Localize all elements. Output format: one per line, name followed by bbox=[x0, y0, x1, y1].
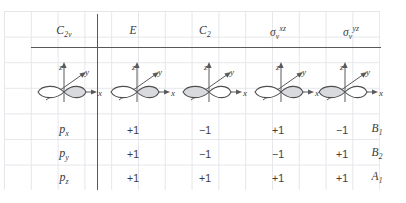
p-orbital-axes-right-shaded: z y x bbox=[28, 58, 108, 108]
orbital-diagram-identity: z y x bbox=[101, 58, 181, 108]
sigma-xz-superscript: xz bbox=[279, 24, 286, 33]
c2-symbol: C bbox=[199, 24, 207, 36]
p-orbital-axes-right-shaded: z y x bbox=[101, 58, 181, 108]
table-cell-px-identity: +1 bbox=[97, 124, 169, 136]
symmetry-subscript: 2 bbox=[379, 152, 383, 161]
p-orbital-lobe-right bbox=[209, 86, 231, 97]
c2-subscript: 2 bbox=[207, 30, 211, 39]
table-row-pz-symmetry-label: A1 bbox=[360, 170, 394, 185]
sigma-xz-subscript: v bbox=[276, 32, 280, 41]
table-cell-pz-sigma-xz: +1 bbox=[241, 172, 315, 184]
p-orbital-lobe-right-shaded bbox=[64, 86, 86, 97]
table-cell-px-c2: −1 bbox=[169, 124, 241, 136]
y-axis-label: y bbox=[84, 67, 89, 77]
character-table-page: C2v E C2 σvxz σvyz bbox=[0, 0, 406, 203]
sigma-yz-superscript: yz bbox=[352, 24, 359, 33]
column-header-point-group: C2v bbox=[31, 24, 97, 39]
y-axis-label: y bbox=[157, 67, 162, 77]
p-orbital-lobe-left bbox=[255, 86, 281, 97]
y-axis-label: y bbox=[365, 67, 370, 77]
column-header-sigma-v-xz: σvxz bbox=[241, 24, 315, 41]
p-orbital-lobe-left bbox=[38, 86, 64, 97]
x-axis-arrow bbox=[372, 89, 378, 94]
z-axis-label: z bbox=[131, 62, 136, 72]
table-cell-py-c2: −1 bbox=[169, 148, 241, 160]
orbital-diagram-point-group: z y x bbox=[28, 58, 108, 108]
p-orbital-lobe-left-shaded bbox=[319, 86, 345, 97]
table-cell-py-sigma-xz: −1 bbox=[241, 148, 315, 160]
column-header-identity: E bbox=[97, 24, 169, 36]
column-header-c2-rotation: C2 bbox=[169, 24, 241, 39]
symmetry-subscript: 1 bbox=[379, 128, 383, 137]
orbital-diagram-sigma-v-yz: z y x bbox=[309, 58, 389, 108]
p-orbital-axes-left-shaded: z y x bbox=[309, 58, 389, 108]
orbital-subscript: y bbox=[65, 153, 69, 162]
x-axis-arrow bbox=[91, 89, 97, 94]
table-row-pz-orbital-label: pz bbox=[31, 170, 97, 186]
table-row-px-orbital-label: px bbox=[31, 122, 97, 138]
x-axis-arrow bbox=[164, 89, 170, 94]
table-cell-pz-identity: +1 bbox=[97, 172, 169, 184]
p-orbital-lobe-right-shaded bbox=[281, 86, 303, 97]
p-orbital-lobe-left-shaded bbox=[183, 86, 209, 97]
table-cell-px-sigma-xz: +1 bbox=[241, 124, 315, 136]
z-axis-label: z bbox=[339, 62, 344, 72]
point-group-subscript: 2v bbox=[64, 30, 71, 39]
orbital-diagram-c2-rotation: z y x bbox=[173, 58, 253, 108]
orbital-subscript: z bbox=[65, 177, 68, 186]
p-orbital-axes-left-shaded: z y x bbox=[173, 58, 253, 108]
point-group-symbol: C bbox=[56, 24, 64, 36]
header-separator-rule bbox=[31, 47, 381, 48]
p-orbital-lobe-right-shaded bbox=[137, 86, 159, 97]
y-axis-label: y bbox=[229, 67, 234, 77]
y-axis-label: y bbox=[301, 67, 306, 77]
table-cell-py-identity: +1 bbox=[97, 148, 169, 160]
x-axis-label: x bbox=[378, 88, 383, 98]
orbital-subscript: x bbox=[65, 129, 69, 138]
identity-symbol: E bbox=[129, 24, 136, 36]
z-axis-label: z bbox=[58, 62, 63, 72]
column-header-sigma-v-yz: σvyz bbox=[315, 24, 387, 41]
table-row-py-symmetry-label: B2 bbox=[360, 146, 394, 161]
symmetry-letter: B bbox=[372, 146, 379, 158]
c2v-character-table: C2v E C2 σvxz σvyz bbox=[0, 0, 406, 203]
symmetry-subscript: 1 bbox=[379, 176, 383, 185]
table-row-px-symmetry-label: B1 bbox=[360, 122, 394, 137]
table-row-py-orbital-label: py bbox=[31, 146, 97, 162]
z-axis-label: z bbox=[203, 62, 208, 72]
x-axis-arrow bbox=[236, 89, 242, 94]
p-orbital-lobe-right bbox=[345, 86, 367, 97]
table-cell-pz-c2: +1 bbox=[169, 172, 241, 184]
sigma-yz-subscript: v bbox=[349, 32, 353, 41]
p-orbital-lobe-left bbox=[111, 86, 137, 97]
symmetry-letter: B bbox=[372, 122, 379, 134]
symmetry-letter: A bbox=[372, 170, 379, 182]
z-axis-label: z bbox=[275, 62, 280, 72]
